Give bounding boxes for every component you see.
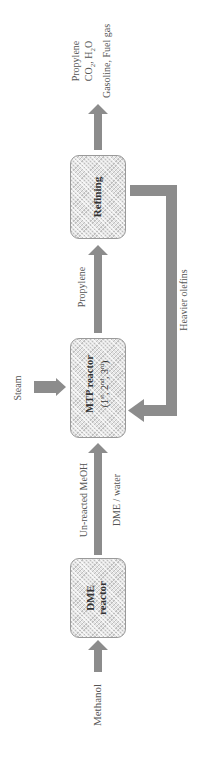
unreacted-meoh-label: Un-reacted MeOH [78, 455, 92, 545]
mtp-reactor-label: MTP reactor (1st, 2nd, 3rd) [84, 334, 112, 434]
steam-arrow-icon [34, 378, 66, 396]
output-gasoline-fuel-gas: Gasoline, Fuel gas [100, 16, 113, 106]
propylene-flow-label: Propylene [76, 252, 90, 322]
methanol-arrow-icon [88, 640, 108, 672]
output-propylene: Propylene [69, 16, 82, 106]
recycle-arrow-icon [128, 399, 144, 422]
output-products-label: Propylene CO2, H2O Gasoline, Fuel gas [69, 16, 111, 106]
recycle-pipe-bottom [142, 405, 177, 416]
dme-reactor-line2: reactor [96, 568, 108, 628]
mtp-reactor-title: MTP reactor [84, 334, 96, 434]
methanol-label: Methanol [91, 670, 105, 740]
steam-label: Steam [12, 368, 26, 408]
refining-label: Refining [91, 157, 105, 237]
output-arrow-icon [88, 104, 108, 150]
output-co2-h2o: CO2, H2O [82, 16, 100, 106]
mtp-reactor-stages: (1st, 2nd, 3rd) [96, 334, 111, 434]
recycle-pipe-vertical [166, 185, 177, 416]
heavier-olefins-label: Heavier olefins [178, 260, 192, 340]
dme-water-label: DME / water [111, 455, 125, 545]
dme-reactor-label: DME reactor [84, 568, 112, 628]
propylene-arrow-icon [88, 245, 108, 333]
dme-reactor-line1: DME [84, 568, 96, 628]
